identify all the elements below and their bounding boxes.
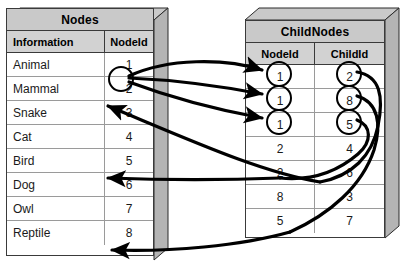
relationship-arrows bbox=[0, 0, 408, 273]
arrow-node1-to-child-row2 bbox=[129, 78, 262, 94]
highlight-circle-nodes-nodeid-1 bbox=[108, 66, 134, 92]
highlight-circle-child-childid-row2 bbox=[336, 85, 362, 111]
highlight-circle-child-childid-row3 bbox=[336, 109, 362, 135]
highlight-circle-child-nodeid-row2 bbox=[266, 85, 292, 111]
arrow-node1-to-child-row1 bbox=[129, 62, 262, 76]
arrow-back-to-node-8 bbox=[112, 232, 290, 250]
highlight-circle-child-nodeid-row3 bbox=[266, 109, 292, 135]
arrow-back-to-node-5 bbox=[108, 178, 280, 180]
diagram-canvas: Nodes Information NodeId Animal 1 Mammal… bbox=[0, 0, 408, 273]
curve-childid-8 bbox=[290, 96, 378, 232]
arrow-node1-to-child-row3 bbox=[129, 82, 262, 118]
highlight-circle-child-nodeid-row1 bbox=[266, 61, 292, 87]
highlight-circle-child-childid-row1 bbox=[336, 61, 362, 87]
